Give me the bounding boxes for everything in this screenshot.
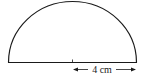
semicircle-diagram: 4 cm [0, 0, 146, 79]
arrowhead-right-icon [131, 68, 136, 72]
radius-label: 4 cm [92, 64, 112, 75]
semicircle-arc [9, 1, 137, 62]
arrowhead-left-icon [73, 68, 78, 72]
radius-dimension-arrow: 4 cm [73, 64, 136, 75]
